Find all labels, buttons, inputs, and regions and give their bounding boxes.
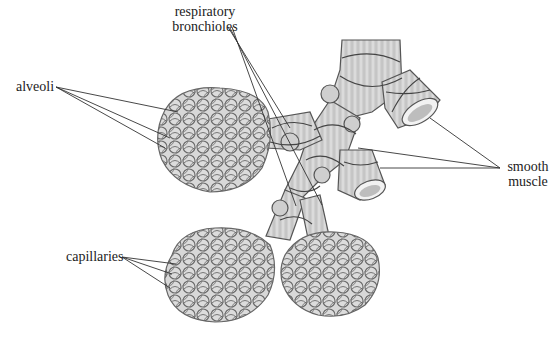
label-alveoli: alveoli xyxy=(16,79,54,94)
alveoli-cluster-lower-left xyxy=(165,228,275,322)
alveoli-cluster-lower-right xyxy=(281,232,380,316)
label-smooth-muscle: smooth muscle xyxy=(500,159,556,189)
label-respiratory-bronchioles: respiratory bronchioles xyxy=(165,4,245,34)
bronchiole-tree xyxy=(262,40,442,248)
label-respiratory-bronchioles-line2: bronchioles xyxy=(165,19,245,34)
alveoli-cluster-upper xyxy=(158,88,271,192)
label-capillaries: capillaries xyxy=(66,249,124,264)
label-smooth-muscle-line2: muscle xyxy=(500,174,556,189)
diagram-canvas: respiratory bronchioles alveoli smooth m… xyxy=(0,0,560,341)
label-smooth-muscle-line1: smooth xyxy=(500,159,556,174)
illustration xyxy=(0,0,560,341)
label-respiratory-bronchioles-line1: respiratory xyxy=(165,4,245,19)
